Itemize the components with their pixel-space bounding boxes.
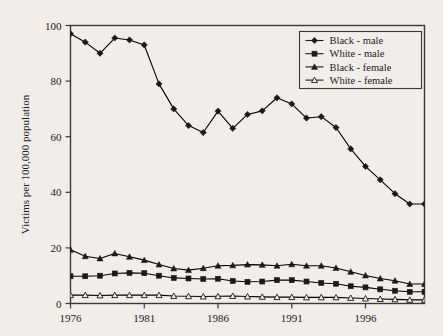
data-point-marker (260, 279, 265, 284)
legend-label: White - male (330, 48, 385, 59)
legend-label: White - female (330, 75, 393, 86)
data-point-marker (407, 289, 412, 294)
data-point-marker (304, 279, 309, 284)
series-white-male (68, 270, 427, 294)
y-axis-title: Victims per 100,000 population (19, 94, 31, 234)
line-chart: 02040608010019761981198619911996Victims … (0, 0, 443, 336)
data-point-marker (156, 81, 162, 87)
x-axis-tick-label: 1976 (60, 312, 83, 324)
data-point-marker (422, 289, 427, 294)
series-white-female (68, 292, 428, 302)
data-point-marker (82, 253, 88, 258)
data-point-marker (334, 281, 339, 286)
data-point-marker (83, 274, 88, 279)
x-axis-tick-label: 1981 (133, 312, 155, 324)
data-point-marker (67, 31, 73, 37)
data-point-marker (141, 42, 147, 48)
x-axis-tick-label: 1991 (281, 312, 303, 324)
y-axis-tick-label: 100 (45, 20, 62, 32)
y-axis-tick-label: 80 (51, 75, 63, 87)
x-axis-tick-label: 1996 (355, 312, 378, 324)
data-point-marker (157, 273, 162, 278)
y-axis-tick-label: 60 (51, 131, 63, 143)
legend-label: Black - male (330, 35, 384, 46)
data-point-marker (98, 273, 103, 278)
data-point-marker (127, 270, 132, 275)
data-point-marker (142, 271, 147, 276)
data-point-marker (112, 250, 118, 255)
data-point-marker (201, 277, 206, 282)
y-axis-tick-label: 40 (51, 186, 63, 198)
data-point-marker (319, 280, 324, 285)
data-point-marker (200, 129, 206, 135)
data-point-marker (171, 275, 176, 280)
data-point-marker (230, 278, 235, 283)
data-point-marker (112, 271, 117, 276)
x-axis-tick-label: 1986 (207, 312, 230, 324)
chart-figure: 02040608010019761981198619911996Victims … (0, 0, 443, 336)
legend-label: Black - female (330, 62, 392, 73)
y-axis-tick-label: 0 (56, 298, 62, 310)
y-axis-tick-label: 20 (51, 242, 63, 254)
data-point-marker (421, 201, 427, 207)
data-point-marker (275, 278, 280, 283)
data-point-marker (126, 37, 132, 43)
data-point-marker (393, 288, 398, 293)
data-point-marker (68, 274, 73, 279)
legend-marker (312, 51, 317, 56)
data-point-marker (363, 285, 368, 290)
legend: Black - maleWhite - maleBlack - femaleWh… (300, 32, 422, 89)
data-point-marker (289, 278, 294, 283)
data-point-marker (186, 276, 191, 281)
data-point-marker (378, 287, 383, 292)
data-point-marker (245, 279, 250, 284)
data-point-marker (216, 276, 221, 281)
data-point-marker (348, 284, 353, 289)
